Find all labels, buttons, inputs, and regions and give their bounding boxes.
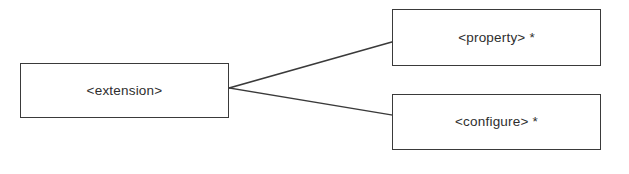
node-property[interactable]: <property> * (392, 9, 601, 66)
node-property-label: <property> * (458, 31, 535, 45)
node-configure[interactable]: <configure> * (392, 94, 601, 150)
connector-extension-to-configure (229, 88, 392, 115)
diagram-canvas: <extension> <property> * <configure> * (0, 0, 629, 174)
connector-extension-to-property (229, 42, 392, 88)
node-extension-label: <extension> (87, 84, 163, 98)
node-configure-label: <configure> * (455, 115, 538, 129)
node-extension[interactable]: <extension> (20, 63, 229, 118)
